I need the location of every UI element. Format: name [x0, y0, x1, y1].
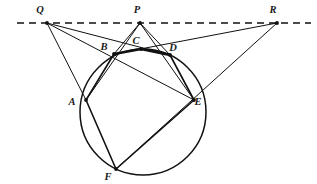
segment-q-e	[47, 23, 194, 100]
point-label-e: E	[193, 96, 201, 107]
vertex-marker-b	[112, 52, 116, 56]
point-label-q: Q	[36, 4, 44, 15]
diagram-canvas: QPRBCDAEF	[0, 0, 317, 184]
circle-layer	[80, 49, 206, 175]
point-label-f: F	[103, 171, 111, 182]
segment-q-a	[47, 23, 86, 100]
point-label-d: D	[168, 42, 177, 53]
vertex-marker-q	[45, 21, 49, 25]
main-circle	[80, 49, 206, 175]
point-label-p: P	[134, 4, 141, 15]
vertex-markers-layer	[45, 21, 279, 171]
vertex-marker-f	[114, 167, 118, 171]
vertex-marker-c	[139, 47, 143, 51]
point-label-r: R	[268, 4, 276, 15]
point-label-a: A	[67, 96, 75, 107]
point-label-c: C	[132, 35, 140, 46]
segment-e-f	[116, 100, 194, 169]
vertex-marker-r	[275, 21, 279, 25]
point-labels-layer: QPRBCDAEF	[36, 4, 276, 182]
segment-p-e	[140, 23, 194, 100]
vertex-marker-a	[84, 98, 88, 102]
vertex-marker-d	[168, 53, 172, 57]
point-label-b: B	[99, 41, 107, 52]
vertex-marker-p	[138, 21, 142, 25]
geometry-figure: QPRBCDAEF	[0, 0, 317, 184]
